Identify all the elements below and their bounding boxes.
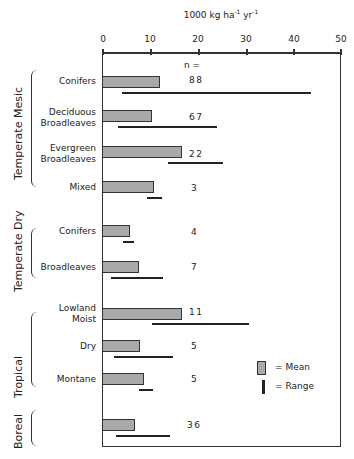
category-label: Dry [0, 341, 96, 352]
group-label-temperate-mesic: Temperate Mesic [12, 87, 25, 180]
group-brace [31, 70, 40, 187]
legend-mean-swatch [257, 361, 266, 375]
n-value: 11 [189, 307, 203, 317]
x-tick-label: 10 [144, 34, 155, 44]
mean-bar [102, 225, 130, 237]
mean-bar [102, 340, 140, 352]
mean-bar [102, 181, 154, 193]
mean-bar [102, 261, 139, 273]
group-brace [31, 228, 40, 278]
mean-bar [102, 308, 182, 320]
group-label-boreal: Boreal [12, 414, 25, 449]
range-line [111, 277, 163, 279]
range-line [147, 197, 162, 199]
group-brace [31, 312, 40, 387]
mean-bar [102, 146, 182, 158]
legend-mean-label: = Mean [275, 362, 310, 372]
legend-range-swatch [262, 380, 265, 394]
n-value: 67 [189, 112, 203, 122]
category-label: LowlandMoist [0, 303, 96, 325]
range-line [114, 356, 173, 358]
n-value: 4 [191, 227, 198, 237]
n-header: n = [184, 60, 200, 70]
mean-bar [102, 419, 135, 431]
mean-bar [102, 76, 160, 88]
x-tick-label: 50 [335, 34, 346, 44]
n-value: 5 [191, 374, 198, 384]
x-tick-label: 40 [288, 34, 299, 44]
range-line [122, 92, 311, 94]
range-line [123, 241, 134, 243]
n-value: 36 [187, 420, 201, 430]
range-line [116, 435, 170, 437]
n-value: 3 [191, 183, 198, 193]
group-brace [31, 410, 40, 446]
x-axis-unit: 1000 kg ha-1 yr-1 [0, 8, 354, 20]
range-line [139, 389, 153, 391]
group-label-tropical: Tropical [12, 356, 25, 398]
range-line [152, 323, 249, 325]
n-value: 7 [191, 262, 198, 272]
n-value: 22 [189, 149, 203, 159]
mean-bar [102, 110, 152, 122]
n-value: 5 [191, 341, 198, 351]
x-tick-label: 30 [240, 34, 251, 44]
category-label: Conifers [0, 76, 96, 87]
x-tick-label: 0 [100, 34, 106, 44]
range-line [168, 162, 223, 164]
group-label-temperate-dry: Temperate Dry [12, 211, 25, 292]
mean-bar [102, 373, 144, 385]
category-label: Mixed [0, 182, 96, 193]
x-tick-label: 20 [192, 34, 203, 44]
n-value: 88 [189, 75, 203, 85]
range-line [118, 126, 217, 128]
legend-range-label: = Range [275, 381, 314, 391]
